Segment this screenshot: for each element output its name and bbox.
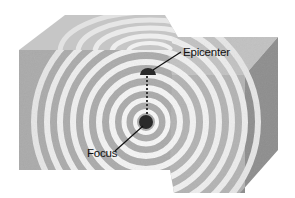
focus-label: Focus <box>87 147 118 159</box>
diagram-canvas: Epicenter Focus <box>0 0 295 198</box>
earthquake-diagram: Epicenter Focus <box>0 0 295 198</box>
epicenter-label: Epicenter <box>183 46 230 58</box>
